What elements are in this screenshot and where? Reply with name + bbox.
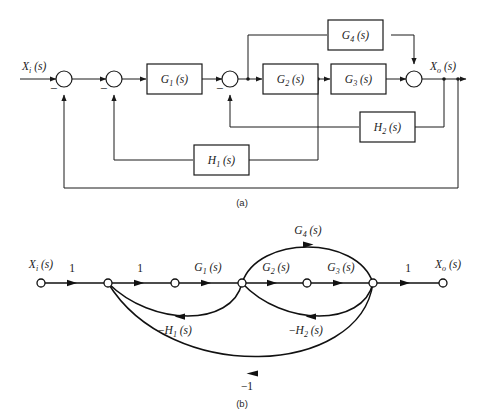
block-h1[interactable]: H1 (s) [194, 145, 249, 175]
sum-junction-3[interactable] [222, 71, 238, 87]
flow-arrow-n0-n1 [67, 280, 77, 286]
flow-node-3[interactable] [238, 279, 246, 287]
flow-label-g1: G1 (s) [194, 261, 221, 276]
block-g2[interactable]: G2 (s) [263, 64, 318, 94]
flow-arrow-h1 [175, 313, 186, 319]
flow-label-g4: G4 (s) [294, 224, 321, 239]
block-g1[interactable]: G1 (s) [147, 64, 202, 94]
flow-node-4[interactable] [303, 279, 311, 287]
block-diagram-input-label: Xi (s) [21, 60, 46, 75]
block-g3[interactable]: G3 (s) [331, 64, 386, 94]
flow-branch-h2-arc [242, 283, 373, 320]
sum-2-minus-sign: − [100, 81, 107, 96]
sum-junction-4[interactable] [406, 71, 422, 87]
tap-node-a [246, 77, 250, 81]
flow-graph-output-label: Xo (s) [434, 258, 461, 273]
flow-arrow-h2 [306, 313, 317, 319]
flow-branch-h1-arc [108, 283, 242, 320]
flow-label-h2: −H2 (s) [289, 324, 323, 339]
flow-label-unity-2: 1 [137, 262, 143, 274]
tap-node-output-h2 [442, 77, 446, 81]
flow-label-unity-1: 1 [69, 262, 75, 274]
block-h2[interactable]: H2 (s) [360, 112, 415, 142]
caption-panel-b: (b) [236, 398, 248, 409]
flow-node-2[interactable] [171, 279, 179, 287]
flow-node-output[interactable] [439, 279, 447, 287]
signal-flow-graph-panel: 1 1 G1 (s) G2 (s) G3 (s) G4 (s) −H1 (s) … [0, 215, 485, 410]
sum-junction-2[interactable] [106, 71, 122, 87]
block-diagram-output-label: Xo (s) [429, 60, 456, 75]
flow-arrow-n2-n3 [201, 280, 211, 286]
sum-1-minus-sign: − [50, 81, 57, 96]
tap-node-output-outer [456, 77, 460, 81]
block-g4[interactable]: G4 (s) [328, 20, 383, 50]
wire-g4-to-sum4 [391, 35, 414, 64]
flow-arrow-n4-n5 [333, 280, 343, 286]
flow-edge-h2 [242, 283, 373, 316]
figure-root: − − − G1 (s) G2 (s) G3 (s) G4 (s) [0, 0, 485, 410]
flow-node-input[interactable] [37, 279, 45, 287]
flow-label-negative-unity: −1 [241, 380, 253, 392]
caption-panel-a: (a) [236, 197, 248, 208]
sum-junction-1[interactable] [56, 71, 72, 87]
block-diagram-panel: − − − G1 (s) G2 (s) G3 (s) G4 (s) [0, 0, 485, 215]
flow-branch-negative-unity-arc [108, 283, 373, 377]
flow-label-g3: G3 (s) [327, 261, 354, 276]
flow-node-5[interactable] [369, 279, 377, 287]
flow-graph-input-label: Xi (s) [28, 258, 53, 273]
flow-arrow-n3-n4 [267, 280, 277, 286]
sum-3-minus-sign: − [216, 81, 223, 96]
flow-label-h1: −H1 (s) [158, 324, 192, 339]
flow-arrow-n1-n2 [134, 280, 144, 286]
flow-arrow-n5-n6 [400, 280, 410, 286]
flow-node-1[interactable] [104, 279, 112, 287]
flow-label-unity-out: 1 [405, 262, 411, 274]
wire-output-to-h2 [415, 79, 444, 127]
flow-edge-negative-unity [108, 283, 373, 357]
flow-edge-h1 [108, 283, 242, 316]
flow-arrow-negative-unity [247, 370, 259, 376]
flow-label-g2: G2 (s) [262, 261, 289, 276]
wire-h1-to-sum2 [114, 95, 193, 160]
wire-h2-to-sum3 [230, 95, 359, 127]
